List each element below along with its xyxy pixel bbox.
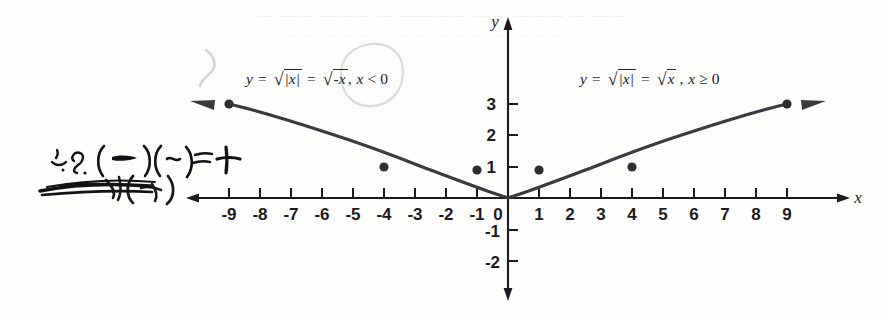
radical-sign-icon: √	[323, 69, 333, 90]
x-tick-label: 6	[689, 205, 698, 224]
x-tick-label: -1	[469, 205, 484, 224]
data-point	[627, 162, 636, 171]
curve-right-branch	[508, 100, 826, 198]
figure-page: — —— ——— — ———— —— ——— — —— —— ——— — —— …	[0, 0, 886, 314]
x-tick-label: -7	[283, 205, 298, 224]
x-tick-label: 2	[565, 205, 574, 224]
x-tick-label: 5	[658, 205, 667, 224]
x-tick-label: 9	[782, 205, 791, 224]
handwritten-note-line-2-struck	[40, 176, 173, 204]
equation-left-eq1: =	[258, 70, 267, 87]
data-point	[379, 162, 388, 171]
data-point	[224, 99, 233, 108]
x-tick-label: -2	[438, 205, 453, 224]
y-tick-label: 2	[487, 126, 496, 145]
x-tick-label: -5	[345, 205, 360, 224]
radical-sign-icon: √	[608, 69, 618, 90]
data-point	[782, 99, 791, 108]
data-point	[534, 165, 543, 174]
equation-right-eq1: =	[592, 70, 601, 87]
equation-left-domain-val: 0	[380, 70, 388, 87]
equation-left-domain-rel: <	[367, 70, 376, 87]
equation-left-sqrt2-radicand: -x	[334, 70, 346, 87]
coordinate-plane-figure: x y -9 -8 -7 -6 -5 -4 -3 -2 -1 0 1 2 3 4…	[0, 0, 886, 314]
x-tick-label: -4	[376, 205, 392, 224]
equation-right-domain-rel: ≥	[699, 70, 708, 87]
equation-label-left-branch: y=√|x|=√-x,x<0	[246, 68, 388, 89]
data-point	[472, 165, 481, 174]
x-tick-label: 1	[534, 205, 543, 224]
equation-right-sqrt-2: √x	[655, 68, 677, 89]
equation-right-eq2: =	[641, 70, 650, 87]
x-tick-label: -9	[221, 205, 236, 224]
x-tick-label: -6	[314, 205, 329, 224]
x-tick-label: -8	[252, 205, 267, 224]
radical-sign-icon: √	[274, 69, 284, 90]
y-axis-label: y	[489, 12, 499, 31]
equation-left-sqrt1-radicand: |x|	[285, 70, 300, 87]
x-tick-label: -3	[407, 205, 422, 224]
y-axis	[504, 17, 518, 301]
x-tick-label: 4	[627, 205, 637, 224]
radical-sign-icon: √	[657, 69, 667, 90]
x-tick-label: 3	[596, 205, 605, 224]
equation-right-sqrt2-radicand: x	[668, 70, 675, 87]
pencil-squiggle-annotation	[200, 50, 214, 86]
x-tick-labels-negative: -9 -8 -7 -6 -5 -4 -3 -2 -1	[221, 205, 484, 224]
equation-right-domain-var: x	[688, 70, 695, 87]
equation-label-right-branch: y=√|x|=√x,x≥0	[580, 68, 720, 89]
y-tick-label: 3	[487, 95, 496, 114]
equation-left-domain-var: x	[357, 70, 364, 87]
x-tick-label: 8	[751, 205, 760, 224]
equation-left-comma: ,	[348, 70, 352, 87]
curve-left-branch	[190, 100, 508, 198]
equation-right-sqrt-1: √|x|	[606, 68, 636, 89]
equation-right-lhs: y	[580, 70, 587, 87]
equation-left-sqrt-2: √-x	[321, 68, 348, 89]
x-tick-label: 7	[720, 205, 729, 224]
equation-right-comma: ,	[679, 70, 683, 87]
equation-left-lhs: y	[246, 70, 253, 87]
x-axis-label: x	[853, 188, 862, 207]
equation-left-sqrt-1: √|x|	[272, 68, 302, 89]
handwritten-note-line-1	[52, 146, 240, 177]
x-tick-labels-positive: 1 2 3 4 5 6 7 8 9	[534, 205, 791, 224]
equation-left-eq2: =	[307, 70, 316, 87]
y-tick-labels: 3 2 1 -1 -2	[485, 95, 500, 272]
equation-right-sqrt1-radicand: |x|	[619, 70, 634, 87]
y-tick-label: -2	[485, 253, 500, 272]
y-tick-label: -1	[485, 222, 500, 241]
equation-right-domain-val: 0	[712, 70, 720, 87]
y-tick-label: 1	[487, 158, 496, 177]
